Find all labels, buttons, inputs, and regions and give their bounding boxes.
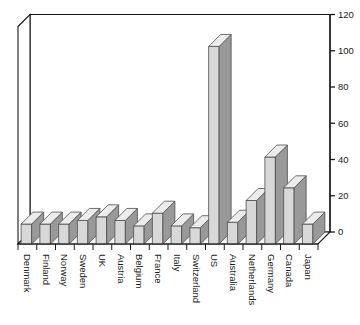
category-label: Netherlands — [247, 254, 258, 305]
y-tick-label: 120 — [338, 9, 354, 20]
y-tick-label: 100 — [338, 45, 354, 56]
y-tick-label: 20 — [338, 190, 349, 201]
category-label: Sweden — [78, 254, 89, 288]
bar — [209, 34, 232, 244]
category-label: US — [209, 254, 220, 267]
category-label: Japan — [303, 254, 314, 280]
category-label: Australia — [228, 254, 239, 292]
category-label: Belgium — [134, 254, 145, 288]
category-label: UK — [97, 254, 108, 268]
chart-canvas: 020406080100120 DenmarkFinlandNorwaySwed… — [0, 0, 360, 325]
y-tick-label: 60 — [338, 118, 349, 129]
category-label: Norway — [59, 254, 70, 286]
category-label: Canada — [284, 254, 295, 288]
y-tick-label: 0 — [338, 226, 343, 237]
category-label: Austria — [116, 254, 127, 284]
x-axis-tick-marks — [18, 244, 318, 250]
category-label: Denmark — [22, 254, 33, 293]
y-tick-label: 80 — [338, 81, 349, 92]
category-label: Germany — [266, 254, 277, 293]
bar-chart: 020406080100120 DenmarkFinlandNorwaySwed… — [0, 0, 360, 325]
category-label: Switzerland — [191, 254, 202, 303]
y-tick-label: 40 — [338, 154, 349, 165]
x-axis-category-labels: DenmarkFinlandNorwaySwedenUKAustriaBelgi… — [22, 254, 314, 305]
y-axis-tick-labels: 020406080100120 — [330, 9, 354, 238]
category-label: Italy — [172, 254, 183, 272]
category-label: France — [153, 254, 164, 284]
category-label: Finland — [41, 254, 52, 285]
